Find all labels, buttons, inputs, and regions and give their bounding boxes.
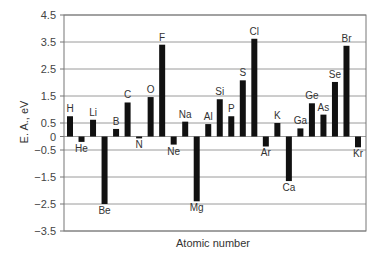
bar-label-b: B — [113, 116, 120, 127]
bar-br — [343, 46, 349, 137]
bar-label-o: O — [147, 84, 155, 95]
bar-p — [228, 116, 234, 136]
y-tick-label: −2.5 — [34, 198, 56, 210]
bar-b — [113, 129, 119, 137]
bar-label-se: Se — [329, 69, 342, 80]
bar-as — [320, 115, 326, 137]
bar-label-n: N — [136, 139, 143, 150]
y-tick-label: 4.5 — [41, 9, 56, 21]
bar-label-s: S — [239, 67, 246, 78]
y-tick-label: 2.5 — [41, 63, 56, 75]
bar-label-cl: Cl — [250, 26, 259, 37]
bar-ne — [171, 137, 177, 145]
y-tick-label: 0.5 — [41, 117, 56, 129]
bar-he — [79, 137, 85, 142]
y-tick-label: −3.5 — [34, 225, 56, 237]
bar-be — [102, 137, 108, 205]
y-tick-label: −1.5 — [34, 171, 56, 183]
y-tick-label: 3.5 — [41, 36, 56, 48]
bar-label-ar: Ar — [261, 147, 272, 158]
bar-si — [217, 99, 223, 136]
bar-li — [90, 120, 96, 137]
bar-mg — [194, 137, 200, 202]
bar-ca — [286, 137, 292, 182]
bar-ar — [263, 137, 269, 147]
bar-label-li: Li — [89, 107, 97, 118]
bar-c — [125, 102, 131, 136]
bar-label-k: K — [274, 110, 281, 121]
bar-label-ga: Ga — [294, 115, 308, 126]
bar-o — [148, 97, 154, 136]
bar-label-br: Br — [341, 33, 352, 44]
bar-label-na: Na — [179, 109, 192, 120]
bar-f — [159, 45, 165, 137]
bar-k — [274, 123, 280, 137]
bar-label-he: He — [75, 143, 88, 154]
bar-s — [240, 80, 246, 136]
bar-kr — [355, 137, 361, 148]
bar-na — [182, 122, 188, 137]
bar-label-ge: Ge — [305, 90, 319, 101]
bar-label-ne: Ne — [167, 146, 180, 157]
bar-label-h: H — [66, 103, 73, 114]
bar-label-as: As — [318, 102, 330, 113]
bar-label-ca: Ca — [282, 182, 295, 193]
bar-n — [136, 137, 142, 139]
y-tick-label: 0 — [50, 131, 56, 143]
bar-cl — [251, 39, 257, 137]
bar-h — [67, 116, 73, 136]
bar-label-mg: Mg — [190, 202, 204, 213]
bar-label-be: Be — [98, 205, 111, 216]
y-tick-label: 1.5 — [41, 90, 56, 102]
bar-al — [205, 124, 211, 136]
y-axis-title: E. A., eV — [18, 100, 30, 143]
electron-affinity-chart: 4.53.52.51.50.50−0.5−1.5−2.5−3.5 HHeLiBe… — [0, 0, 380, 261]
bar-label-si: Si — [215, 86, 224, 97]
bar-se — [332, 82, 338, 137]
y-axis-ticks: 4.53.52.51.50.50−0.5−1.5−2.5−3.5 — [34, 9, 64, 237]
bar-label-kr: Kr — [353, 148, 364, 159]
bar-labels: HHeLiBeBCNOFNeNaMgAlSiPSClArKCaGaGeAsSeB… — [66, 26, 363, 216]
bar-ge — [309, 103, 315, 136]
bar-ga — [297, 128, 303, 136]
bar-label-c: C — [124, 89, 131, 100]
bars — [67, 39, 361, 204]
bar-label-al: Al — [204, 111, 213, 122]
y-tick-label: −0.5 — [34, 144, 56, 156]
x-axis-title: Atomic number — [176, 237, 250, 249]
bar-label-f: F — [159, 32, 165, 43]
bar-label-p: P — [228, 103, 235, 114]
